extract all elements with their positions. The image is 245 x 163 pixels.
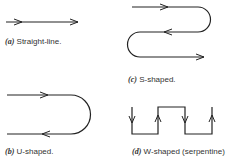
s-shaped-flow <box>128 4 211 60</box>
caption-label: (c) <box>128 75 137 84</box>
layout-diagram <box>0 0 245 163</box>
caption-label: (a) <box>5 37 14 46</box>
caption-text: S-shaped. <box>139 75 175 84</box>
flow-line <box>128 7 211 57</box>
caption-label: (b) <box>5 147 14 156</box>
caption-u-shaped: (b) U-shaped. <box>5 147 53 156</box>
flow-line <box>7 95 91 134</box>
flow-line <box>132 107 212 134</box>
caption-text: Straight-line. <box>17 37 62 46</box>
caption-text: W-shaped (serpentine) <box>144 147 225 156</box>
w-shaped-flow <box>129 107 215 134</box>
u-shaped-flow <box>7 92 91 137</box>
caption-s-shaped: (c) S-shaped. <box>128 75 176 84</box>
caption-text: U-shaped. <box>17 147 54 156</box>
caption-straight-line: (a) Straight-line. <box>5 37 61 46</box>
caption-label: (d) <box>132 147 141 156</box>
straight-line-flow <box>6 19 78 25</box>
caption-w-shaped: (d) W-shaped (serpentine) <box>132 147 225 156</box>
